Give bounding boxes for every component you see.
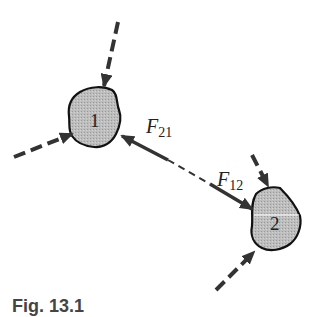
body-1-label: 1: [90, 110, 100, 132]
body-2-label: 2: [270, 213, 280, 235]
external-force-arrow-top-body-2: [252, 155, 268, 186]
external-force-arrow-bottom-body-2: [216, 252, 254, 290]
force-f12-subscript: 12: [229, 178, 243, 193]
force-f21-symbol: F: [146, 115, 158, 137]
force-f21-subscript: 21: [158, 125, 172, 140]
external-force-arrow-left-body-1: [14, 134, 72, 157]
force-f12-symbol: F: [217, 168, 229, 190]
force-f21-label: F21: [146, 115, 172, 141]
figure-caption: Fig. 13.1: [12, 296, 84, 317]
force-f12-label: F12: [217, 168, 243, 194]
external-force-arrow-top-body-1: [104, 22, 118, 86]
line-of-action: [168, 160, 210, 184]
